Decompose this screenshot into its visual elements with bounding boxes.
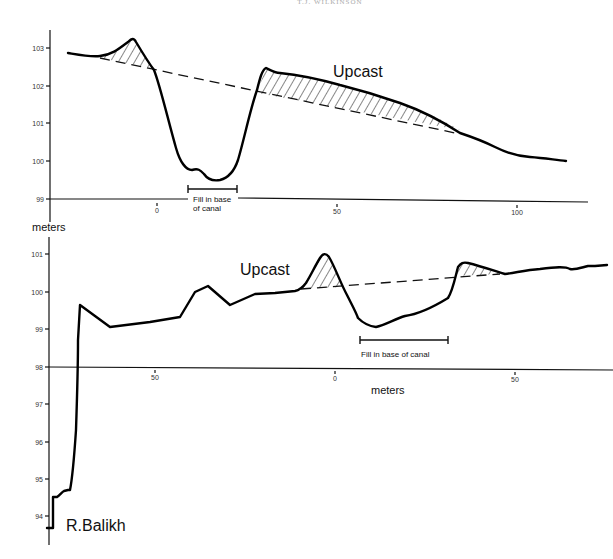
y-axis-unit-label: meters <box>32 221 66 233</box>
river-label: R.Balikh <box>66 517 126 534</box>
x-tick-label: 50 <box>511 376 519 383</box>
bottom-x-ticks: 50 0 50 <box>151 370 519 383</box>
y-tick-label: 98 <box>35 364 43 371</box>
x-tick-label: 0 <box>333 375 337 382</box>
y-tick-label: 95 <box>35 476 43 483</box>
bottom-profile: 101 100 99 98 97 96 95 94 50 0 50 <box>31 237 613 545</box>
upcast-label: Upcast <box>333 63 383 80</box>
bottom-x-axis <box>49 367 613 370</box>
x-tick-label: 50 <box>151 374 159 381</box>
top-profile: 103 102 101 100 99 0 50 100 <box>32 30 588 222</box>
x-tick-label: 100 <box>511 209 523 216</box>
y-tick-label: 100 <box>32 158 44 165</box>
canal-cross-section-diagram: T.J. WILKINSON 103 102 101 100 99 0 50 1… <box>0 0 613 559</box>
x-tick-label: 0 <box>155 207 159 214</box>
upcast-label: Upcast <box>240 261 290 278</box>
bottom-ground-profile <box>47 254 607 528</box>
y-tick-label: 103 <box>32 45 44 52</box>
x-tick-label: 50 <box>333 208 341 215</box>
bottom-y-ticks: 101 100 99 98 97 96 95 94 <box>31 251 49 520</box>
y-tick-label: 97 <box>35 401 43 408</box>
fill-label-line1: Fill in base <box>193 195 232 204</box>
y-tick-label: 101 <box>32 120 44 127</box>
y-tick-label: 102 <box>32 83 44 90</box>
fill-label-line2: of canal <box>193 204 221 213</box>
y-tick-label: 99 <box>35 326 43 333</box>
top-x-axis-right <box>238 198 588 202</box>
running-header: T.J. WILKINSON <box>297 0 362 6</box>
bottom-fill-bracket <box>360 336 448 344</box>
y-tick-label: 96 <box>35 439 43 446</box>
y-tick-label: 99 <box>36 196 44 203</box>
x-axis-unit-label: meters <box>371 384 405 396</box>
fill-label: Fill in base of canal <box>361 350 430 359</box>
top-fill-bracket <box>188 185 237 193</box>
y-tick-label: 101 <box>31 251 43 258</box>
y-tick-label: 100 <box>31 289 43 296</box>
y-tick-label: 94 <box>35 513 43 520</box>
top-y-ticks: 103 102 101 100 99 <box>32 45 50 203</box>
